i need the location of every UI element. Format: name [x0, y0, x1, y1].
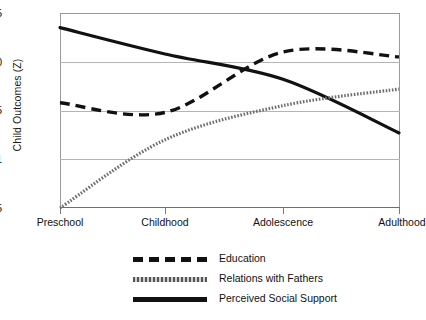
chart-legend: Education Relations with Fathers Perceiv… [133, 250, 423, 310]
legend-item-education: Education [133, 250, 423, 270]
x-tick-mark-childhood [165, 208, 166, 214]
y-tick-label-4: -1.5 [0, 203, 2, 214]
y-tick-label-0: 0.5 [0, 8, 2, 19]
solid-line-swatch-icon [133, 297, 207, 302]
x-tick-mark-adulthood [399, 208, 400, 214]
x-tick-label-adolescence: Adolescence [233, 216, 333, 228]
y-tick-label-3: -1 [0, 154, 2, 165]
x-tick-mark-adolescence [283, 208, 284, 214]
axis-line-bottom [60, 207, 400, 208]
plot-area [60, 13, 400, 208]
legend-label-education: Education [219, 252, 266, 264]
x-tick-label-adulthood: Adulthood [352, 216, 426, 228]
legend-label-relations-with-fathers: Relations with Fathers [219, 272, 323, 284]
legend-item-perceived-social-support: Perceived Social Support [133, 290, 423, 310]
dotted-line-swatch-icon [133, 277, 207, 282]
y-tick-label-2: -0.5 [0, 105, 2, 116]
x-tick-label-preschool: Preschool [10, 216, 110, 228]
gridline-0.5 [60, 13, 400, 14]
legend-item-relations-with-fathers: Relations with Fathers [133, 270, 423, 290]
y-tick-label-1: 0 [0, 57, 2, 68]
gridline-0 [60, 62, 400, 63]
x-tick-mark-preschool [60, 208, 61, 214]
x-tick-label-childhood: Childhood [115, 216, 215, 228]
gridline--1 [60, 159, 400, 160]
chart-figure: Child Outcomes (Z) 0.5 0 -0.5 -1 -1.5 Pr… [0, 0, 426, 320]
legend-label-perceived-social-support: Perceived Social Support [219, 292, 337, 304]
dashed-line-swatch-icon [133, 257, 207, 262]
y-axis-title: Child Outcomes (Z) [11, 25, 23, 185]
gridline--0.5 [60, 111, 400, 112]
